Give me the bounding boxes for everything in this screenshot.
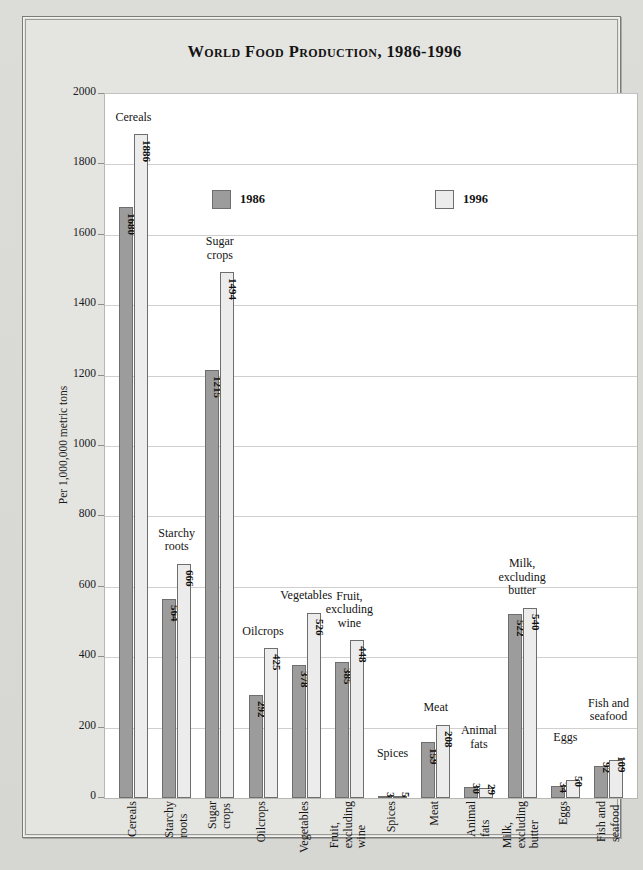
category-title: Fish andseafood bbox=[549, 697, 643, 724]
x-axis-label-cereals: Cereals bbox=[118, 801, 148, 870]
x-axis-label-line: Milk, bbox=[501, 801, 515, 848]
x-axis-label-text: Fruit,excludingwine bbox=[328, 801, 369, 848]
y-tick-label: 1800 bbox=[34, 155, 96, 167]
plot-area: 16801886Cereals564666Starchyroots1215149… bbox=[104, 93, 638, 799]
bar-group: 3450Eggs bbox=[551, 94, 580, 798]
x-axis-label-line: Starchy bbox=[162, 801, 176, 838]
x-axis-label-line: Cereals bbox=[126, 801, 140, 837]
bar-1996 bbox=[177, 564, 191, 798]
bar-value-label: 1886 bbox=[141, 140, 153, 162]
category-title-line: Fish and bbox=[549, 697, 643, 711]
bar-value-label: 666 bbox=[184, 570, 196, 587]
y-tick-label: 1600 bbox=[34, 226, 96, 238]
chart-inner-frame: World Food Production, 1986-1996 Per 1,0… bbox=[25, 19, 618, 835]
bar-group: 292425Oilcrops bbox=[249, 94, 278, 798]
bar-value-label: 109 bbox=[616, 756, 628, 773]
x-axis-label-line: Sugar bbox=[205, 801, 219, 829]
y-tick-label: 1200 bbox=[34, 367, 96, 379]
category-title-line: seafood bbox=[549, 710, 643, 724]
y-tick-label: 200 bbox=[34, 719, 96, 731]
bar-group: 522540Milk,excludingbutter bbox=[508, 94, 537, 798]
bar-1996 bbox=[134, 134, 148, 798]
bar-value-label: 425 bbox=[271, 654, 283, 671]
x-axis-label-line: Meat bbox=[428, 801, 442, 826]
x-axis-label-line: roots bbox=[176, 801, 190, 838]
x-axis-label-text: Eggs bbox=[558, 801, 572, 825]
x-axis-label-fish-and-seafood: Fish andseafood bbox=[593, 801, 623, 870]
y-tick-label: 0 bbox=[34, 789, 96, 801]
y-tick-label: 800 bbox=[34, 507, 96, 519]
x-axis-label-text: Meat bbox=[428, 801, 442, 826]
x-axis-label-line: Animal bbox=[464, 801, 478, 837]
bar-group: 564666Starchyroots bbox=[162, 94, 191, 798]
y-tick-label: 400 bbox=[34, 648, 96, 660]
bar-1996 bbox=[307, 613, 321, 798]
x-axis-label-line: Eggs bbox=[558, 801, 572, 825]
x-axis-label-line: Fruit, bbox=[328, 801, 342, 848]
x-axis-label-text: Cereals bbox=[126, 801, 140, 837]
x-axis-label-sugar-crops: Sugarcrops bbox=[204, 801, 234, 870]
bar-1996 bbox=[523, 608, 537, 798]
x-axis-label-line: butter bbox=[528, 801, 542, 848]
bar-group: 92109Fish andseafood bbox=[594, 94, 623, 798]
bar-group: 12151494Sugarcrops bbox=[205, 94, 234, 798]
x-axis-label-text: Spices bbox=[385, 801, 399, 832]
chart-page: World Food Production, 1986-1996 Per 1,0… bbox=[0, 0, 643, 870]
bar-group: 385448Fruit,excludingwine bbox=[335, 94, 364, 798]
x-axis-label-line: Spices bbox=[385, 801, 399, 832]
x-axis-label-text: Milk,excludingbutter bbox=[501, 801, 542, 848]
x-axis-label-oilcrops: Oilcrops bbox=[247, 801, 277, 870]
x-axis-label-spices: Spices bbox=[377, 801, 407, 870]
x-axis-label-text: Vegetables bbox=[298, 801, 312, 853]
bar-1986 bbox=[508, 614, 522, 798]
bar-value-label: 1494 bbox=[227, 278, 239, 300]
bar-1986 bbox=[205, 370, 219, 798]
bar-1986 bbox=[119, 207, 133, 798]
bar-1996 bbox=[220, 272, 234, 798]
x-axis-label-fruit-excluding-wine: Fruit,excludingwine bbox=[333, 801, 363, 870]
x-axis-label-milk-excluding-butter: Milk,excludingbutter bbox=[506, 801, 536, 870]
x-axis-label-starchy-roots: Starchyroots bbox=[161, 801, 191, 870]
bar-value-label: 448 bbox=[357, 646, 369, 663]
bar-group: 159208Meat bbox=[421, 94, 450, 798]
x-axis-label-eggs: Eggs bbox=[549, 801, 579, 870]
y-tick-label: 1000 bbox=[34, 437, 96, 449]
y-tick-label: 600 bbox=[34, 578, 96, 590]
bar-value-label: 5 bbox=[400, 792, 412, 798]
x-axis-label-line: crops bbox=[219, 801, 233, 829]
bar-group: 16801886Cereals bbox=[119, 94, 148, 798]
x-axis-label-vegetables: Vegetables bbox=[290, 801, 320, 870]
x-axis-label-text: Starchyroots bbox=[162, 801, 189, 838]
x-axis-label-text: Animalfats bbox=[464, 801, 491, 837]
x-axis-label-animal-fats: Animalfats bbox=[463, 801, 493, 870]
x-axis-label-text: Oilcrops bbox=[255, 801, 269, 842]
x-axis-label-line: Oilcrops bbox=[255, 801, 269, 842]
chart-outer-frame: World Food Production, 1986-1996 Per 1,0… bbox=[22, 16, 621, 838]
bar-1986 bbox=[162, 599, 176, 798]
chart-title: World Food Production, 1986-1996 bbox=[26, 42, 623, 62]
bar-value-label: 29 bbox=[486, 784, 498, 795]
x-axis-label-line: fats bbox=[478, 801, 492, 837]
x-axis-label-line: Fish and bbox=[594, 801, 608, 842]
y-tick-label: 2000 bbox=[34, 85, 96, 97]
bar-1996 bbox=[350, 640, 364, 798]
y-tick-label: 1400 bbox=[34, 296, 96, 308]
x-axis-label-line: Vegetables bbox=[298, 801, 312, 853]
bar-group: 378526Vegetables bbox=[292, 94, 321, 798]
x-axis-label-line: seafood bbox=[608, 801, 622, 842]
bar-value-label: 50 bbox=[573, 776, 585, 787]
x-axis-label-text: Fish andseafood bbox=[594, 801, 621, 842]
bar-group: 35Spices bbox=[378, 94, 407, 798]
x-axis-label-line: wine bbox=[355, 801, 369, 848]
x-axis-label-text: Sugarcrops bbox=[205, 801, 232, 829]
x-axis-label-meat: Meat bbox=[420, 801, 450, 870]
bar-value-label: 540 bbox=[530, 614, 542, 631]
bar-group: 3029Animalfats bbox=[464, 94, 493, 798]
